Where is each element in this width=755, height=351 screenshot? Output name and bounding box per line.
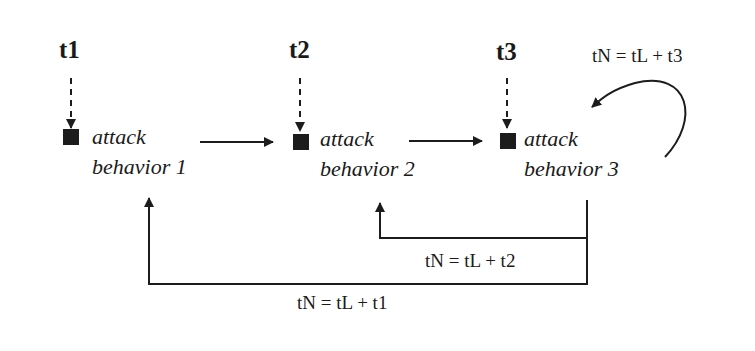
trigger-label-t2: t2	[289, 36, 310, 64]
attack-behavior-diagram: t1 t2 t3 attack behavior 1 attack behavi…	[0, 0, 755, 351]
behavior-2-line1: attack	[320, 124, 415, 154]
behavior-1-node	[63, 129, 79, 145]
self-loop-equation: tN = tL + t3	[592, 45, 682, 67]
behavior-3-line1: attack	[524, 124, 619, 154]
behavior-3-label: attack behavior 3	[524, 124, 619, 184]
behavior-2-label: attack behavior 2	[320, 124, 415, 184]
behavior-2-line2: behavior 2	[320, 154, 415, 184]
behavior-1-line1: attack	[92, 122, 187, 152]
behavior-1-line2: behavior 1	[92, 152, 187, 182]
trigger-label-t1: t1	[59, 36, 80, 64]
behavior-3-line2: behavior 3	[524, 154, 619, 184]
feedback-equation-t2: tN = tL + t2	[425, 250, 515, 272]
feedback-arrow-to-behavior2	[380, 200, 587, 238]
feedback-arrow-to-behavior1	[149, 198, 587, 284]
behavior-2-node	[293, 134, 309, 150]
behavior-1-label: attack behavior 1	[92, 122, 187, 182]
trigger-label-t3: t3	[496, 38, 517, 66]
feedback-equation-t1: tN = tL + t1	[297, 292, 387, 314]
behavior-3-node	[500, 133, 516, 149]
